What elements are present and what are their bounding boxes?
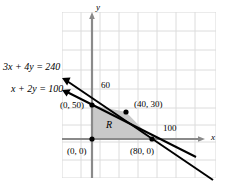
graph-figure: 3x + 4y = 240 x + 2y = 100 60 100 (0, 50…: [0, 0, 227, 184]
tick-label-60: 60: [101, 81, 110, 90]
point-label-0-0: (0, 0): [67, 147, 87, 156]
dot-80-0: [149, 136, 154, 141]
equation-label-x-2y-100: x + 2y = 100: [11, 84, 63, 94]
dot-origin: [89, 136, 94, 141]
point-label-40-30: (40, 30): [134, 100, 163, 109]
y-axis-label: y: [96, 3, 100, 12]
point-label-80-0: (80, 0): [130, 147, 154, 156]
dot-0-50: [89, 102, 94, 107]
x-axis-label: x: [211, 133, 215, 142]
region-label-r: R: [106, 120, 112, 130]
point-label-0-50: (0, 50): [60, 101, 84, 110]
tick-label-100: 100: [163, 124, 177, 133]
dot-40-30: [123, 109, 128, 114]
equation-label-3x-4y-240: 3x + 4y = 240: [3, 62, 60, 72]
